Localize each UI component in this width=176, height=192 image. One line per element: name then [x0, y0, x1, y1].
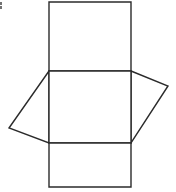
- net-face-right-flap: [131, 71, 168, 143]
- geometric-net-figure: [0, 0, 176, 192]
- net-face-middle: [49, 71, 131, 143]
- figure-canvas: [0, 0, 176, 192]
- net-face-top: [49, 2, 131, 71]
- net-face-bottom: [49, 143, 131, 187]
- net-face-left-flap: [9, 71, 49, 143]
